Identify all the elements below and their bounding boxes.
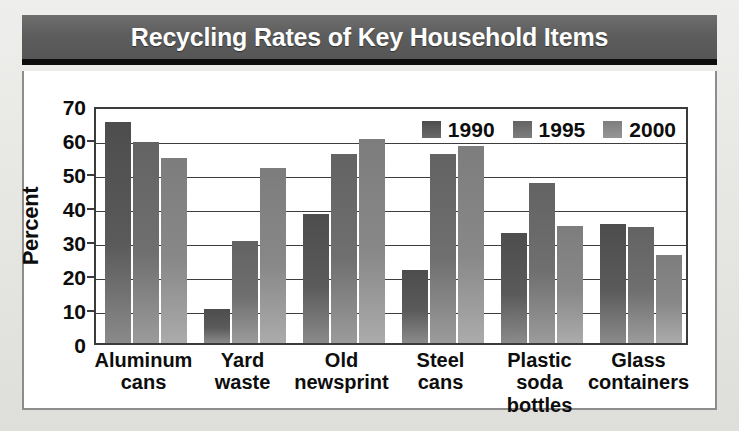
plot-area: 1990 1995 2000 [94,107,688,345]
page-background: Recycling Rates of Key Household Items P… [0,0,739,431]
bar-1995-aluminum-cans [133,142,159,343]
x-tick-label: Plastic soda bottles [484,349,595,416]
bar-group [501,109,583,343]
bar-1995-plastic-soda-bottles [529,183,555,343]
y-axis-tick-labels: 010203040506070 [24,107,90,345]
y-tick-label: 70 [63,97,86,118]
bar-2000-glass-containers [656,255,682,343]
y-tick-label: 20 [63,267,86,288]
bar-2000-yard-waste [260,168,286,343]
chart-legend: 1990 1995 2000 [416,117,680,142]
legend-label-1995: 1995 [539,119,586,140]
chart-title: Recycling Rates of Key Household Items [131,23,608,52]
bar-group [402,109,484,343]
bar-1990-glass-containers [600,224,626,343]
legend-item-2000: 2000 [603,119,676,140]
y-tick-label: 50 [63,165,86,186]
bar-1990-yard-waste [204,309,230,343]
legend-swatch-icon-1995 [513,121,532,138]
chart-title-bar: Recycling Rates of Key Household Items [22,15,717,65]
bar-1995-yard-waste [232,241,258,343]
x-axis-tick-labels: Aluminum cansYard wasteOld newsprintStee… [94,349,688,409]
bar-2000-aluminum-cans [161,158,187,343]
chart-panel: Percent 010203040506070 1990 1995 [22,71,717,410]
bar-group [204,109,286,343]
bar-1990-old-newsprint [303,214,329,343]
bar-group [303,109,385,343]
y-tick-label: 60 [63,131,86,152]
plot-wrapper: 1990 1995 2000 [94,107,688,345]
bar-1990-aluminum-cans [105,122,131,343]
y-tick-label: 10 [63,301,86,322]
legend-item-1995: 1995 [513,119,586,140]
y-tick-label: 40 [63,199,86,220]
chart-figure: Recycling Rates of Key Household Items P… [22,15,717,410]
legend-swatch-icon-2000 [603,121,622,138]
x-tick-label: Glass containers [583,349,694,394]
x-tick-label: Steel cans [385,349,496,394]
x-tick-label: Aluminum cans [88,349,199,394]
y-tick-label: 30 [63,233,86,254]
x-tick-label: Old newsprint [286,349,397,394]
legend-label-1990: 1990 [448,119,495,140]
bar-1995-steel-cans [430,154,456,343]
bar-2000-steel-cans [458,146,484,343]
bar-2000-old-newsprint [359,139,385,343]
y-tick-label: 0 [74,335,86,356]
x-tick-label: Yard waste [187,349,298,394]
legend-swatch-icon-1990 [422,121,441,138]
bar-group [105,109,187,343]
bar-1995-old-newsprint [331,154,357,343]
bar-2000-plastic-soda-bottles [557,226,583,343]
bar-group [600,109,682,343]
legend-item-1990: 1990 [422,119,495,140]
bar-1995-glass-containers [628,227,654,343]
bar-1990-steel-cans [402,270,428,343]
legend-label-2000: 2000 [629,119,676,140]
bar-1990-plastic-soda-bottles [501,233,527,344]
